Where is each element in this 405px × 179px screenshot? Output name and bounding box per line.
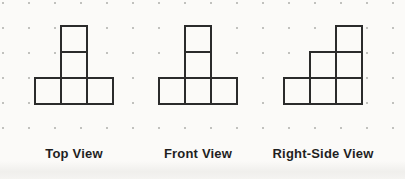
grid-dot xyxy=(54,2,56,4)
grid-dot xyxy=(366,77,368,79)
grid-dot xyxy=(2,127,4,129)
grid-dot xyxy=(80,127,82,129)
grid-dot xyxy=(28,127,30,129)
grid-dot xyxy=(2,27,4,29)
unit-square xyxy=(185,26,211,52)
grid-dot xyxy=(262,2,264,4)
grid-dot xyxy=(28,2,30,4)
grid-dot xyxy=(236,127,238,129)
unit-square xyxy=(336,78,362,104)
grid-dot xyxy=(132,2,134,4)
grid-dot xyxy=(158,2,160,4)
label-right-side-view: Right-Side View xyxy=(273,146,374,161)
grid-dot xyxy=(392,2,394,4)
grid-dot xyxy=(210,127,212,129)
grid-dot xyxy=(2,102,4,104)
grid-dot xyxy=(262,102,264,104)
grid-dot xyxy=(132,102,134,104)
grid-dot xyxy=(158,127,160,129)
grid-dot xyxy=(28,102,30,104)
grid-dot xyxy=(366,127,368,129)
grid-dot xyxy=(236,27,238,29)
grid-dot xyxy=(288,27,290,29)
grid-dot xyxy=(54,52,56,54)
grid-dot xyxy=(54,127,56,129)
unit-square xyxy=(35,78,61,104)
unit-square xyxy=(159,78,185,104)
grid-dot xyxy=(28,27,30,29)
grid-dot xyxy=(210,2,212,4)
grid-dot xyxy=(366,102,368,104)
grid-dot xyxy=(54,27,56,29)
label-front-view: Front View xyxy=(164,146,232,161)
grid-dot xyxy=(314,27,316,29)
grid-dot xyxy=(366,27,368,29)
grid-dot xyxy=(392,77,394,79)
grid-dot xyxy=(80,2,82,4)
grid-dot xyxy=(236,2,238,4)
grid-dot xyxy=(262,77,264,79)
label-top-view: Top View xyxy=(45,146,102,161)
unit-square xyxy=(185,78,211,104)
grid-dot xyxy=(288,127,290,129)
grid-dot xyxy=(132,27,134,29)
grid-dot xyxy=(106,27,108,29)
grid-dot xyxy=(2,52,4,54)
unit-square xyxy=(185,52,211,78)
unit-square xyxy=(336,26,362,52)
grid-dot xyxy=(2,77,4,79)
unit-square xyxy=(87,78,113,104)
unit-square xyxy=(61,52,87,78)
grid-dot xyxy=(106,52,108,54)
grid-dot xyxy=(366,52,368,54)
grid-dot xyxy=(392,27,394,29)
grid-dot xyxy=(158,27,160,29)
grid-dot xyxy=(236,52,238,54)
grid-dot xyxy=(392,102,394,104)
grid-dot xyxy=(392,127,394,129)
unit-square xyxy=(336,52,362,78)
grid-dot xyxy=(340,127,342,129)
grid-dot xyxy=(392,52,394,54)
grid-dot xyxy=(28,77,30,79)
grid-dot xyxy=(106,127,108,129)
grid-dot xyxy=(184,127,186,129)
unit-square xyxy=(310,52,336,78)
unit-square xyxy=(61,26,87,52)
grid-dot xyxy=(106,2,108,4)
grid-dot xyxy=(314,127,316,129)
grid-dot xyxy=(262,127,264,129)
worksheet-page: Top View Front View Right-Side View xyxy=(0,0,405,179)
grid-dot xyxy=(314,2,316,4)
unit-square xyxy=(61,78,87,104)
grid-dot xyxy=(288,52,290,54)
grid-dot xyxy=(262,52,264,54)
grid-dot xyxy=(366,2,368,4)
grid-dot xyxy=(132,77,134,79)
grid-dot xyxy=(158,52,160,54)
grid-dot xyxy=(28,52,30,54)
grid-dot xyxy=(340,2,342,4)
grid-dot xyxy=(262,27,264,29)
grid-dot xyxy=(2,2,4,4)
grid-dot xyxy=(132,127,134,129)
unit-square xyxy=(284,78,310,104)
unit-square xyxy=(310,78,336,104)
grid-dot xyxy=(132,52,134,54)
unit-square xyxy=(211,78,237,104)
grid-dot xyxy=(184,2,186,4)
grid-dot xyxy=(288,2,290,4)
